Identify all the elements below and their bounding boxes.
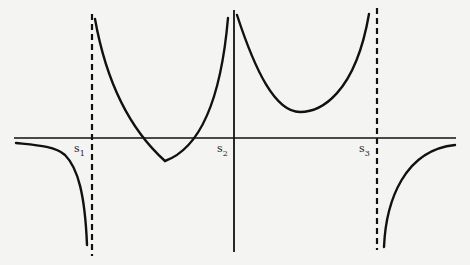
curve-branch-2 — [95, 18, 228, 161]
label-s2: s2 — [217, 142, 228, 158]
label-s1: s1 — [74, 142, 85, 158]
curve-branch-4 — [384, 145, 455, 247]
function-graph: s1 s2 s3 — [0, 0, 470, 265]
curve-branch-1 — [16, 143, 87, 245]
label-s3: s3 — [359, 142, 370, 158]
curve-branch-3 — [237, 14, 369, 112]
